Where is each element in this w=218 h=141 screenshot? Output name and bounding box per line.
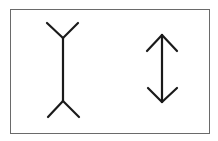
- diagram-frame: [11, 10, 210, 134]
- muller-lyer-diagram: Müller-Lyer illusion: [0, 0, 218, 141]
